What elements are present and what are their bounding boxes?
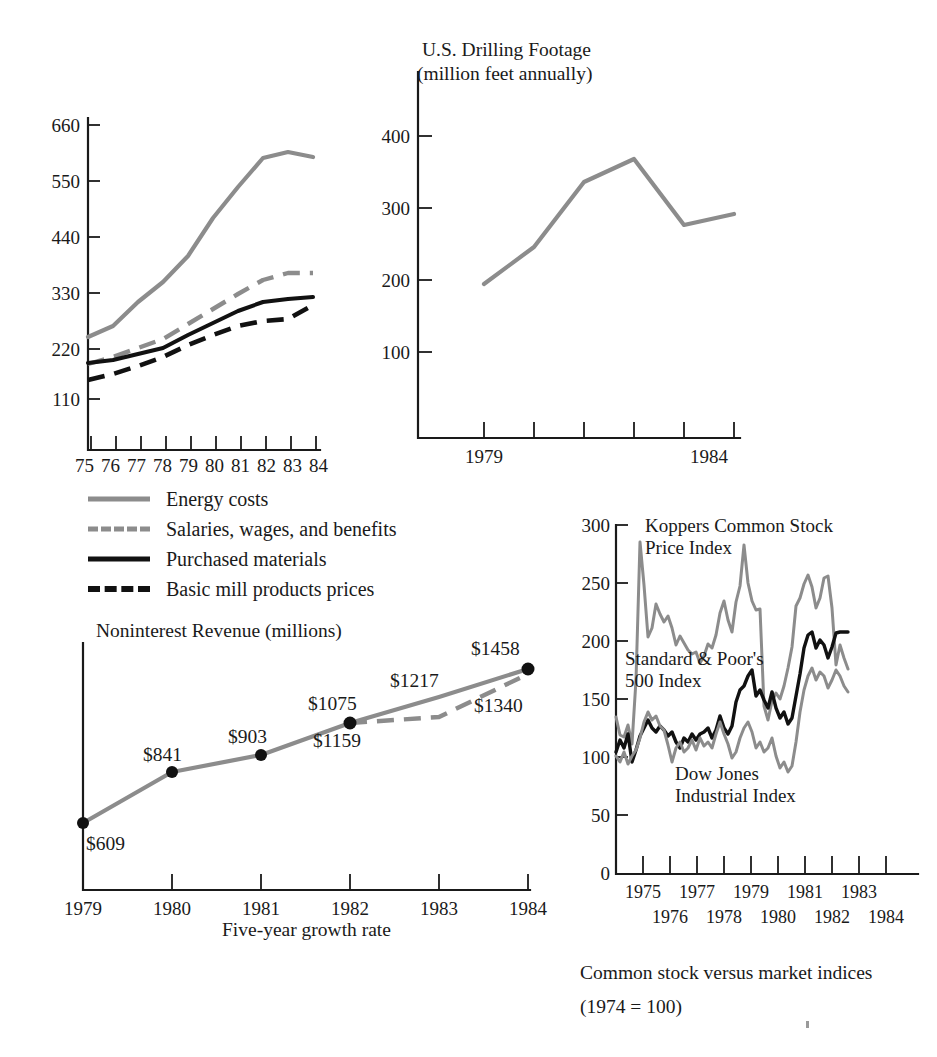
drilling-ytick-300: 300 xyxy=(382,198,411,219)
annot-dowjones-line2: Industrial Index xyxy=(675,785,796,806)
drilling-x-ticks xyxy=(484,422,734,438)
annot-sp500-line1: Standard & Poor's xyxy=(625,648,764,669)
drilling-axes xyxy=(418,72,740,438)
series-energy-costs xyxy=(88,152,313,337)
common-stock-caption-line2: (1974 = 100) xyxy=(580,996,682,1018)
scan-artifact xyxy=(806,1021,809,1028)
revenue-xlabel: Five-year growth rate xyxy=(222,919,391,941)
cost-trends-x-ticks xyxy=(91,436,316,450)
common-stock-indices-chart: 300 250 200 150 100 50 0 1975 1977 1979 … xyxy=(570,480,937,950)
revenue-label-609: $609 xyxy=(86,833,125,854)
cost-xtick-80: 80 xyxy=(205,455,224,476)
stock-xtick-1981: 1981 xyxy=(787,882,823,902)
common-stock-x-ticks xyxy=(643,856,886,874)
cost-ytick-220: 220 xyxy=(52,339,81,360)
stock-xtick-1982: 1982 xyxy=(814,907,850,927)
cost-ytick-330: 330 xyxy=(52,283,81,304)
legend-row-energy-costs: Energy costs xyxy=(88,484,396,514)
common-stock-axes xyxy=(616,525,918,874)
revenue-marker-1982 xyxy=(344,717,357,730)
revenue-label-903: $903 xyxy=(228,726,267,747)
legend-label-salaries: Salaries, wages, and benefits xyxy=(166,518,396,541)
revenue-marker-1984 xyxy=(522,663,535,676)
noninterest-revenue-svg: Noninterest Revenue (millions) 1979 1980… xyxy=(60,595,550,925)
annot-koppers-line2: Price Index xyxy=(645,537,733,558)
stock-ytick-250: 250 xyxy=(582,573,611,594)
stock-ytick-0: 0 xyxy=(601,863,611,884)
line-solid-black-swatch-icon xyxy=(88,549,150,569)
common-stock-svg: 300 250 200 150 100 50 0 1975 1977 1979 … xyxy=(570,480,937,950)
annot-dowjones-line1: Dow Jones xyxy=(675,763,759,784)
drilling-footage-svg: U.S. Drilling Footage (million feet annu… xyxy=(370,30,770,480)
cost-trends-svg: 660 550 440 330 220 110 75 76 77 78 79 8… xyxy=(0,0,400,480)
cost-ytick-550: 550 xyxy=(52,171,81,192)
revenue-xtick-1983: 1983 xyxy=(420,898,458,919)
cost-trends-legend: Energy costs Salaries, wages, and benefi… xyxy=(88,484,396,604)
legend-label-purchased-materials: Purchased materials xyxy=(166,548,327,571)
revenue-label-1458: $1458 xyxy=(471,638,520,659)
drilling-title: U.S. Drilling Footage xyxy=(422,39,591,60)
stock-xtick-1984: 1984 xyxy=(868,907,904,927)
stock-xtick-1976: 1976 xyxy=(652,907,688,927)
cost-xtick-82: 82 xyxy=(257,455,276,476)
stock-xtick-1975: 1975 xyxy=(625,882,661,902)
drilling-ytick-100: 100 xyxy=(382,342,411,363)
cost-trends-axes xyxy=(88,118,320,450)
annot-sp500-line2: 500 Index xyxy=(625,670,702,691)
cost-trends-chart: 660 550 440 330 220 110 75 76 77 78 79 8… xyxy=(0,0,400,480)
series-us-drilling-footage xyxy=(484,159,734,284)
cost-xtick-77: 77 xyxy=(127,455,146,476)
annot-koppers-line1: Koppers Common Stock xyxy=(645,515,833,536)
revenue-x-ticks xyxy=(83,874,528,890)
cost-xtick-81: 81 xyxy=(231,455,250,476)
stock-ytick-200: 200 xyxy=(582,631,611,652)
cost-xtick-79: 79 xyxy=(179,455,198,476)
line-solid-gray-swatch-icon xyxy=(88,489,150,509)
stock-ytick-300: 300 xyxy=(582,515,611,536)
stock-xtick-1978: 1978 xyxy=(706,907,742,927)
revenue-label-841: $841 xyxy=(143,744,182,765)
revenue-label-1159: $1159 xyxy=(313,730,361,751)
stock-ytick-150: 150 xyxy=(582,689,611,710)
stock-xtick-1980: 1980 xyxy=(760,907,796,927)
drilling-xtick-1979: 1979 xyxy=(465,446,503,467)
legend-row-purchased-materials: Purchased materials xyxy=(88,544,396,574)
cost-trends-y-ticks xyxy=(88,125,100,399)
drilling-footage-chart: U.S. Drilling Footage (million feet annu… xyxy=(370,30,770,480)
line-dashed-gray-swatch-icon xyxy=(88,519,150,539)
revenue-label-1075: $1075 xyxy=(308,693,357,714)
revenue-axes xyxy=(83,643,530,890)
legend-label-energy-costs: Energy costs xyxy=(166,488,268,511)
drilling-subtitle: (million feet annually) xyxy=(417,63,592,85)
drilling-xtick-1984: 1984 xyxy=(690,446,729,467)
cost-xtick-78: 78 xyxy=(153,455,172,476)
revenue-title: Noninterest Revenue (millions) xyxy=(96,620,342,642)
revenue-label-1340: $1340 xyxy=(474,695,523,716)
noninterest-revenue-chart: Noninterest Revenue (millions) 1979 1980… xyxy=(60,595,550,925)
stock-xtick-1983: 1983 xyxy=(841,882,877,902)
cost-ytick-440: 440 xyxy=(52,227,81,248)
cost-ytick-660: 660 xyxy=(52,115,81,136)
revenue-xtick-1981: 1981 xyxy=(242,898,280,919)
revenue-label-1217: $1217 xyxy=(390,670,439,691)
drilling-ytick-200: 200 xyxy=(382,270,411,291)
legend-row-salaries: Salaries, wages, and benefits xyxy=(88,514,396,544)
cost-xtick-83: 83 xyxy=(283,455,302,476)
stock-ytick-100: 100 xyxy=(582,747,611,768)
cost-ytick-110: 110 xyxy=(52,389,80,410)
stock-ytick-50: 50 xyxy=(591,805,610,826)
revenue-marker-1979 xyxy=(77,817,89,829)
cost-xtick-84: 84 xyxy=(309,455,329,476)
revenue-xtick-1979: 1979 xyxy=(64,898,102,919)
stock-xtick-1979: 1979 xyxy=(733,882,769,902)
cost-xtick-76: 76 xyxy=(101,455,120,476)
revenue-xtick-1980: 1980 xyxy=(153,898,191,919)
revenue-xtick-1984: 1984 xyxy=(509,898,548,919)
drilling-ytick-400: 400 xyxy=(382,126,411,147)
revenue-marker-1981 xyxy=(255,749,267,761)
cost-xtick-75: 75 xyxy=(75,455,94,476)
common-stock-caption-line1: Common stock versus market indices xyxy=(580,962,872,984)
revenue-marker-1980 xyxy=(166,766,178,778)
stock-xtick-1977: 1977 xyxy=(679,882,715,902)
revenue-xtick-1982: 1982 xyxy=(331,898,369,919)
